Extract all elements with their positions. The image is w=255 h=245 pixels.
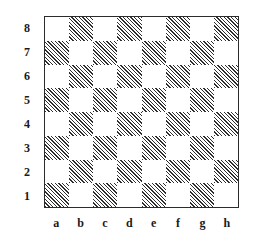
chessboard-grid bbox=[45, 17, 238, 207]
board-square-d2 bbox=[117, 160, 141, 184]
board-square-d1 bbox=[117, 183, 141, 207]
board-square-h8 bbox=[214, 17, 238, 41]
board-square-e5 bbox=[142, 88, 166, 112]
file-label-f: f bbox=[166, 212, 190, 234]
board-square-h3 bbox=[214, 136, 238, 160]
board-square-d3 bbox=[117, 136, 141, 160]
board-square-e4 bbox=[142, 112, 166, 136]
file-label-a: a bbox=[44, 212, 68, 234]
rank-label-column: 8 7 6 5 4 3 2 1 bbox=[14, 16, 40, 208]
rank-label-7: 7 bbox=[14, 40, 40, 64]
board-square-e6 bbox=[142, 65, 166, 89]
board-square-c7 bbox=[93, 41, 117, 65]
board-square-f3 bbox=[166, 136, 190, 160]
board-square-g6 bbox=[190, 65, 214, 89]
board-square-d5 bbox=[117, 88, 141, 112]
rank-label-8: 8 bbox=[14, 16, 40, 40]
board-square-g2 bbox=[190, 160, 214, 184]
board-square-a4 bbox=[45, 112, 69, 136]
board-square-b2 bbox=[69, 160, 93, 184]
board-square-d6 bbox=[117, 65, 141, 89]
board-square-d7 bbox=[117, 41, 141, 65]
board-square-b8 bbox=[69, 17, 93, 41]
rank-label-6: 6 bbox=[14, 64, 40, 88]
rank-label-4: 4 bbox=[14, 112, 40, 136]
board-square-c4 bbox=[93, 112, 117, 136]
board-square-e1 bbox=[142, 183, 166, 207]
board-square-f6 bbox=[166, 65, 190, 89]
rank-label-3: 3 bbox=[14, 136, 40, 160]
file-label-c: c bbox=[93, 212, 117, 234]
board-square-c3 bbox=[93, 136, 117, 160]
board-square-f4 bbox=[166, 112, 190, 136]
board-square-b3 bbox=[69, 136, 93, 160]
rank-label-5: 5 bbox=[14, 88, 40, 112]
file-label-d: d bbox=[117, 212, 141, 234]
board-square-f7 bbox=[166, 41, 190, 65]
board-square-h7 bbox=[214, 41, 238, 65]
chessboard-figure: 8 7 6 5 4 3 2 1 a b c d e f g h bbox=[0, 0, 255, 245]
board-square-a7 bbox=[45, 41, 69, 65]
board-square-g8 bbox=[190, 17, 214, 41]
board-square-e3 bbox=[142, 136, 166, 160]
board-square-a3 bbox=[45, 136, 69, 160]
board-square-b6 bbox=[69, 65, 93, 89]
board-square-d8 bbox=[117, 17, 141, 41]
board-square-g4 bbox=[190, 112, 214, 136]
board-square-c1 bbox=[93, 183, 117, 207]
board-square-e8 bbox=[142, 17, 166, 41]
board-square-e7 bbox=[142, 41, 166, 65]
board-square-g1 bbox=[190, 183, 214, 207]
board-square-a1 bbox=[45, 183, 69, 207]
board-square-a8 bbox=[45, 17, 69, 41]
board-square-f1 bbox=[166, 183, 190, 207]
board-square-c5 bbox=[93, 88, 117, 112]
board-square-f5 bbox=[166, 88, 190, 112]
board-square-e2 bbox=[142, 160, 166, 184]
board-square-g5 bbox=[190, 88, 214, 112]
board-square-f2 bbox=[166, 160, 190, 184]
board-square-h6 bbox=[214, 65, 238, 89]
board-square-f8 bbox=[166, 17, 190, 41]
chessboard bbox=[44, 16, 239, 208]
board-square-a6 bbox=[45, 65, 69, 89]
board-square-a5 bbox=[45, 88, 69, 112]
board-square-c6 bbox=[93, 65, 117, 89]
board-square-h1 bbox=[214, 183, 238, 207]
board-square-b7 bbox=[69, 41, 93, 65]
board-square-h2 bbox=[214, 160, 238, 184]
file-label-row: a b c d e f g h bbox=[44, 212, 239, 234]
board-square-h5 bbox=[214, 88, 238, 112]
file-label-g: g bbox=[190, 212, 214, 234]
file-label-e: e bbox=[142, 212, 166, 234]
rank-label-1: 1 bbox=[14, 184, 40, 208]
board-square-c2 bbox=[93, 160, 117, 184]
board-square-a2 bbox=[45, 160, 69, 184]
file-label-h: h bbox=[215, 212, 239, 234]
board-square-d4 bbox=[117, 112, 141, 136]
rank-label-2: 2 bbox=[14, 160, 40, 184]
board-square-g3 bbox=[190, 136, 214, 160]
board-square-g7 bbox=[190, 41, 214, 65]
board-square-c8 bbox=[93, 17, 117, 41]
board-square-b1 bbox=[69, 183, 93, 207]
board-square-h4 bbox=[214, 112, 238, 136]
board-square-b4 bbox=[69, 112, 93, 136]
file-label-b: b bbox=[68, 212, 92, 234]
board-square-b5 bbox=[69, 88, 93, 112]
